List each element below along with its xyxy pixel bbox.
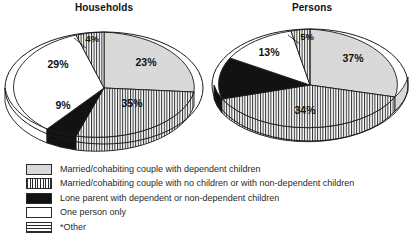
legend-label-couple-no-children: Married/cohabiting couple with no childr… — [60, 179, 354, 188]
label-couple-no-children-persons: 34% — [294, 104, 316, 116]
legend-label-lone-parent: Lone parent with dependent or non-depend… — [60, 194, 279, 203]
label-lone-parent-households: 9% — [55, 99, 71, 111]
legend-item-other: *Other — [0, 220, 416, 235]
legend: Married/cohabiting couple with dependent… — [0, 162, 416, 245]
label-one-person-persons: 13% — [258, 46, 280, 58]
label-couple-no-children-households: 35% — [121, 97, 143, 109]
legend-item-one-person: One person only — [0, 206, 416, 221]
legend-swatch-solid-black-icon — [26, 193, 52, 204]
legend-item-couple-no-children: Married/cohabiting couple with no childr… — [0, 177, 416, 192]
legend-swatch-solid-light-gray-icon — [26, 164, 52, 175]
pie-persons: 37% 34% 11% 13% 5% — [208, 18, 416, 160]
pie-charts-container: Households — [0, 0, 416, 160]
label-couple-dependent-persons: 37% — [342, 52, 364, 64]
legend-label-one-person: One person only — [60, 208, 126, 217]
legend-swatch-solid-white-icon — [26, 207, 52, 218]
pie-persons-svg: 37% 34% 11% 13% 5% — [208, 18, 416, 160]
chart-households: Households — [0, 0, 208, 160]
legend-item-lone-parent: Lone parent with dependent or non-depend… — [0, 191, 416, 206]
label-other-persons: 5% — [300, 31, 314, 42]
label-one-person-households: 29% — [47, 58, 69, 70]
label-other-households: 4% — [85, 33, 99, 44]
chart-title-households: Households — [0, 2, 208, 13]
legend-swatch-horizontal-stripes-icon — [26, 222, 52, 233]
pie-households-svg: 23% 35% 9% 29% 4% — [0, 18, 208, 160]
chart-title-persons: Persons — [208, 2, 416, 13]
pie-households: 23% 35% 9% 29% 4% — [0, 18, 208, 160]
legend-item-couple-dependent: Married/cohabiting couple with dependent… — [0, 162, 416, 177]
legend-label-couple-dependent: Married/cohabiting couple with dependent… — [60, 165, 261, 174]
label-lone-parent-persons: 11% — [243, 70, 264, 82]
legend-swatch-vertical-stripes-icon — [26, 178, 52, 189]
label-couple-dependent-households: 23% — [135, 56, 157, 68]
legend-label-other: *Other — [60, 223, 86, 232]
chart-persons: Persons — [208, 0, 416, 160]
